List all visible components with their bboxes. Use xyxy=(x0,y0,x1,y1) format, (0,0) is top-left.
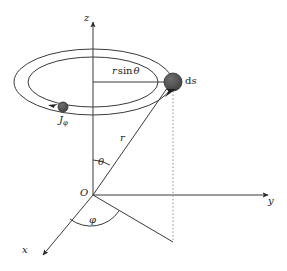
physics-diagram-figure: z y x O θ φ r rsinθ ds Jφ xyxy=(0,0,287,271)
ds-element-label: ds xyxy=(185,76,197,86)
current-subscript: φ xyxy=(63,119,68,127)
ds-marker-dot xyxy=(164,73,182,91)
x-axis xyxy=(43,195,93,255)
current-density-label: Jφ xyxy=(59,115,68,125)
theta-angle-label: θ xyxy=(98,157,104,167)
ds-element-marker xyxy=(164,73,182,97)
x-axis-line xyxy=(43,195,93,255)
ring-radius-theta: θ xyxy=(134,65,140,76)
current-direction-arrowhead xyxy=(48,104,58,108)
radial-vector-line xyxy=(93,84,170,195)
radial-length-label: r xyxy=(120,133,125,143)
ring-radius-label: rsinθ xyxy=(112,66,140,76)
z-axis-label: z xyxy=(84,13,89,23)
ring-radius-sin: sin xyxy=(117,65,134,76)
current-marker-dot xyxy=(58,102,68,112)
diagram-canvas xyxy=(0,0,287,271)
y-axis-label: y xyxy=(268,196,274,206)
azimuthal-projection-line xyxy=(93,195,173,242)
phi-angle-label: φ xyxy=(89,215,96,225)
x-axis-label: x xyxy=(22,245,28,255)
ds-suffix: s xyxy=(191,75,196,86)
origin-label: O xyxy=(80,188,88,198)
